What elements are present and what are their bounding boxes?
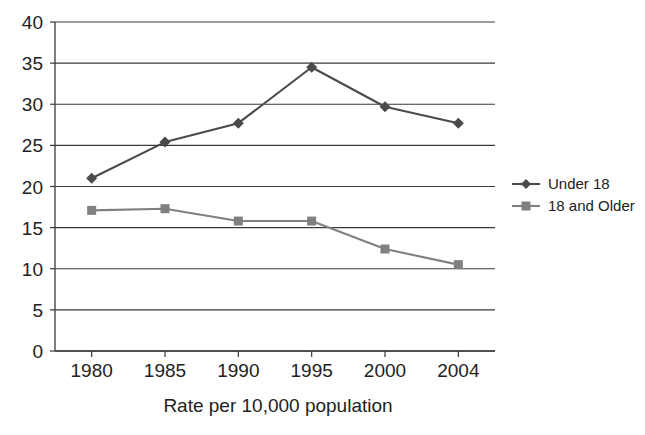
y-axis-tick-label: 25: [22, 135, 43, 156]
y-axis-tick-label: 0: [32, 341, 43, 362]
chart-page: 0510152025303540 19801985199019952000200…: [0, 0, 645, 435]
x-axis-tick-label: 2004: [437, 360, 480, 381]
y-axis-tick-label: 40: [22, 12, 43, 33]
x-axis-tick-label: 1990: [217, 360, 259, 381]
data-point-marker-square: [234, 217, 243, 226]
y-axis-tick-label: 30: [22, 94, 43, 115]
data-point-marker-square: [87, 206, 96, 215]
data-point-marker-square: [161, 204, 170, 213]
data-point-marker-square: [381, 245, 390, 254]
line-chart: 0510152025303540 19801985199019952000200…: [0, 0, 645, 435]
y-axis-tick-label: 20: [22, 177, 43, 198]
x-axis-tick-label: 1995: [291, 360, 333, 381]
legend-label: Under 18: [548, 175, 610, 192]
data-point-marker-square: [307, 217, 316, 226]
y-axis-tick-label: 10: [22, 259, 43, 280]
x-axis-tick-label: 1980: [71, 360, 113, 381]
x-axis-title: Rate per 10,000 population: [163, 395, 392, 416]
data-point-marker-square: [454, 260, 463, 269]
legend-label: 18 and Older: [548, 197, 635, 214]
data-point-marker-square: [522, 202, 531, 211]
y-axis-tick-label: 15: [22, 218, 43, 239]
y-axis-tick-label: 5: [32, 300, 43, 321]
x-axis-tick-label: 1985: [144, 360, 186, 381]
y-axis-tick-label: 35: [22, 53, 43, 74]
x-axis-tick-label: 2000: [364, 360, 406, 381]
